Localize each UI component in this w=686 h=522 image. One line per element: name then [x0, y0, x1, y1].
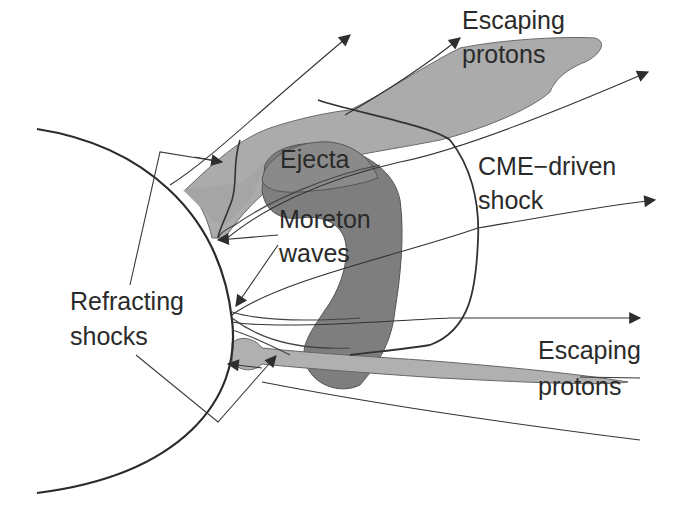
- label-escaping-protons-upper-1: Escaping: [462, 6, 565, 34]
- label-escaping-protons-upper-2: protons: [462, 40, 545, 68]
- label-ejecta: Ejecta: [280, 145, 349, 173]
- cme-diagram: Escaping protons Ejecta CME−driven shock…: [0, 0, 686, 522]
- label-refracting-shocks-2: shocks: [70, 322, 148, 350]
- moreton-pointer-2: [236, 245, 278, 306]
- label-cme-driven-shock-2: shock: [478, 186, 543, 214]
- label-refracting-shocks-1: Refracting: [70, 287, 184, 315]
- label-moreton-waves-1: Moreton: [279, 205, 371, 233]
- label-escaping-protons-lower-1: Escaping: [538, 336, 641, 364]
- trajectory-arrow-5: [232, 318, 640, 325]
- label-escaping-protons-lower-2: protons: [538, 372, 621, 400]
- label-moreton-waves-2: waves: [279, 239, 350, 267]
- label-cme-driven-shock-1: CME−driven: [478, 152, 616, 180]
